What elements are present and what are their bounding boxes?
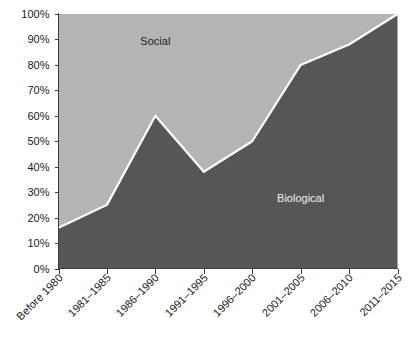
- y-tick-label: 60%: [27, 110, 49, 122]
- x-tick-label: 1981–1985: [65, 271, 112, 318]
- x-tick-label: Before 1980: [14, 271, 65, 322]
- y-axis-tick-labels: 0%10%20%30%40%50%60%70%80%90%100%: [21, 8, 49, 275]
- x-tick-label: 2006–2010: [307, 271, 354, 318]
- plot-area: [59, 14, 398, 269]
- x-tick-label: 1986–1990: [113, 271, 160, 318]
- y-tick-label: 80%: [27, 59, 49, 71]
- y-tick-label: 20%: [27, 212, 49, 224]
- x-axis-tick-labels: Before 19801981–19851986–19901991–199519…: [14, 271, 404, 322]
- y-tick-label: 50%: [27, 135, 49, 147]
- y-tick-label: 70%: [27, 84, 49, 96]
- x-tick-label: 2001–2005: [259, 271, 306, 318]
- x-tick-label: 2011–2015: [357, 271, 404, 318]
- y-tick-label: 0%: [34, 263, 50, 275]
- y-tick-label: 100%: [21, 8, 49, 20]
- series-annotation-biological: Biological: [277, 192, 324, 204]
- series-annotation-social: Social: [140, 35, 170, 47]
- y-tick-label: 30%: [27, 186, 49, 198]
- y-tick-label: 90%: [27, 33, 49, 45]
- y-tick-label: 40%: [27, 161, 49, 173]
- x-tick-label: 1996–2000: [210, 271, 257, 318]
- x-tick-label: 1991–1995: [162, 271, 209, 318]
- y-tick-label: 10%: [27, 237, 49, 249]
- stacked-area-chart: 0%10%20%30%40%50%60%70%80%90%100% Before…: [0, 0, 413, 343]
- chart-container: 0%10%20%30%40%50%60%70%80%90%100% Before…: [0, 0, 413, 343]
